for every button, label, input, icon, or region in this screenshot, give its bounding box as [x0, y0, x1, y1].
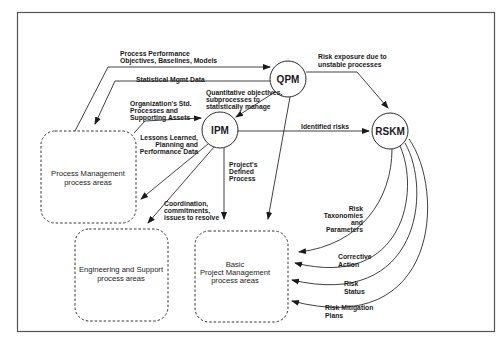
smd-label: Statistical Mgmt Data [136, 76, 205, 84]
taxonomies-label-2: Taxonomies [324, 212, 363, 219]
taxonomies-label-3: and [351, 219, 363, 226]
status-label-2: Status [344, 288, 365, 295]
taxonomies-label-4: Parameters [326, 226, 363, 233]
engineering-support-box[interactable]: Engineering and Support process areas [75, 229, 168, 321]
mitigation-label-1: Risk Mitigation [325, 304, 373, 312]
ppo-label-2: Objectives, Baselines, Models [120, 57, 217, 65]
ipm-node[interactable]: IPM [202, 112, 238, 148]
qo-label-3: statistically manage [206, 103, 271, 111]
ipm-label: IPM [211, 125, 229, 136]
corrective-label-1: Corrective [338, 253, 372, 260]
defined-process-label-2: Defined [229, 168, 254, 175]
status-label-1: Risk [344, 280, 359, 287]
ppo-label-1: Process Performance [120, 50, 190, 57]
rskm-label: RSKM [375, 126, 404, 137]
osp-label-3: Supporting Assets [130, 114, 190, 122]
identified-risks-label: Identified risks [301, 123, 349, 130]
edge-risk-exposure [306, 72, 388, 108]
edge-taxonomies [299, 149, 392, 252]
engineering-support-label-1: Engineering and Support [79, 265, 164, 274]
corrective-label-2: Action [338, 261, 359, 268]
osp-label-2: Processes and [130, 107, 178, 114]
process-management-label-1: Process Management [51, 169, 126, 178]
risk-exposure-label-2: unstable processes [318, 61, 382, 69]
process-management-label-2: process areas [64, 178, 112, 187]
mitigation-label-2: Plans [325, 312, 343, 319]
process-area-interaction-diagram: Process Management process areas Enginee… [0, 0, 504, 350]
edge-qpm-to-basic [268, 97, 290, 219]
defined-process-label-3: Process [229, 175, 256, 182]
basic-pm-label-3: process areas [211, 276, 259, 285]
process-management-box[interactable]: Process Management process areas [41, 131, 136, 223]
risk-exposure-label-1: Risk exposure due to [318, 53, 387, 61]
engineering-support-label-2: process areas [97, 274, 145, 283]
lessons-label-3: Performance Data [140, 148, 198, 155]
basic-project-management-box[interactable]: Basic Project Management process areas [195, 231, 288, 322]
rskm-node[interactable]: RSKM [372, 113, 408, 149]
coordination-label-3: issues to resolve [164, 214, 219, 221]
taxonomies-label-1: Risk [349, 205, 364, 212]
qpm-label: QPM [277, 74, 300, 85]
